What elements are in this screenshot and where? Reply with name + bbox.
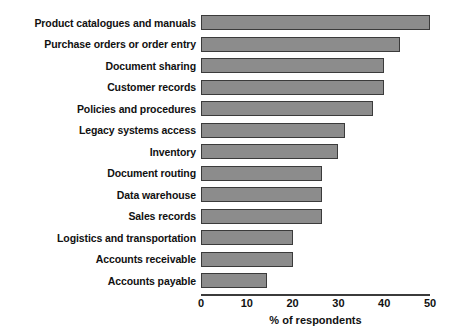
bar-row: Accounts receivable — [0, 252, 454, 267]
category-label: Data warehouse — [117, 189, 196, 201]
bar-chart: Product catalogues and manuals Purchase … — [0, 0, 454, 333]
bar — [201, 166, 322, 181]
bar — [201, 252, 293, 267]
x-tick-label: 50 — [424, 297, 436, 309]
category-label: Purchase orders or order entry — [44, 38, 196, 50]
bar-row: Purchase orders or order entry — [0, 37, 454, 52]
bar-row: Customer records — [0, 80, 454, 95]
bar-row: Sales records — [0, 209, 454, 224]
x-tick-label: 40 — [378, 297, 390, 309]
category-label: Legacy systems access — [79, 124, 196, 136]
category-label: Sales records — [128, 210, 196, 222]
bar — [201, 80, 384, 95]
x-axis-title: % of respondents — [201, 314, 430, 326]
category-label: Inventory — [150, 146, 196, 158]
category-label: Policies and procedures — [77, 103, 196, 115]
bar — [201, 123, 345, 138]
category-label: Document sharing — [105, 60, 196, 72]
category-label: Accounts payable — [108, 275, 196, 287]
x-axis-tick-labels: 0 10 20 30 40 50 — [0, 297, 454, 313]
category-label: Accounts receivable — [96, 253, 196, 265]
bar-row: Inventory — [0, 144, 454, 159]
category-label: Logistics and transportation — [57, 232, 196, 244]
category-label: Customer records — [107, 81, 196, 93]
x-axis-line — [201, 294, 430, 296]
bar — [201, 230, 293, 245]
bar — [201, 37, 400, 52]
x-tick-label: 10 — [241, 297, 253, 309]
bar — [201, 187, 322, 202]
bar-row: Product catalogues and manuals — [0, 15, 454, 30]
bar-row: Accounts payable — [0, 273, 454, 288]
bar-row: Policies and procedures — [0, 101, 454, 116]
bar — [201, 58, 384, 73]
bar — [201, 144, 338, 159]
bar — [201, 273, 267, 288]
bar-row: Legacy systems access — [0, 123, 454, 138]
x-tick-label: 20 — [286, 297, 298, 309]
x-tick-label: 30 — [332, 297, 344, 309]
bar — [201, 101, 373, 116]
category-label: Product catalogues and manuals — [34, 17, 196, 29]
bar-row: Logistics and transportation — [0, 230, 454, 245]
bar-row: Document sharing — [0, 58, 454, 73]
bar — [201, 209, 322, 224]
bar-row: Data warehouse — [0, 187, 454, 202]
category-label: Document routing — [107, 167, 196, 179]
x-tick-label: 0 — [198, 297, 204, 309]
bar-row: Document routing — [0, 166, 454, 181]
bar — [201, 15, 430, 30]
